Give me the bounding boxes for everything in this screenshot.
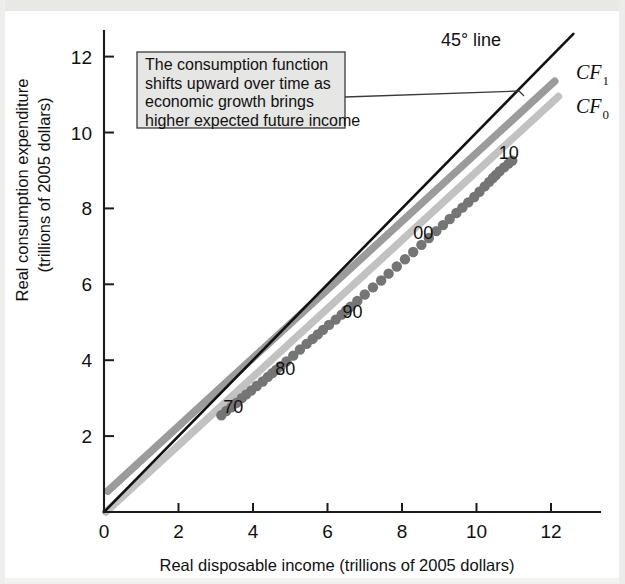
data-point xyxy=(360,289,370,299)
curve-label-cf0-subscript: 0 xyxy=(603,107,610,122)
y-tick-label-8: 8 xyxy=(81,198,92,219)
y-axis-title-line1: Real consumption expenditure xyxy=(13,79,31,302)
callout-line-1: The consumption function xyxy=(145,56,328,73)
x-tick-label-2: 2 xyxy=(173,521,184,542)
year-label-00: 00 xyxy=(413,223,433,243)
y-tick-label-10: 10 xyxy=(71,123,92,144)
callout-line-3: economic growth brings xyxy=(145,93,314,110)
y-tick-label-6: 6 xyxy=(81,274,92,295)
x-axis-title: Real disposable income (trillions of 200… xyxy=(160,556,515,574)
y-axis-ticks: 24681012 xyxy=(71,47,114,448)
year-label-70: 70 xyxy=(223,397,243,417)
cf1-curve xyxy=(108,81,555,491)
callout-leader-line xyxy=(345,91,519,97)
cf0-path xyxy=(106,96,559,512)
callout-leader-arrow xyxy=(519,91,524,96)
year-label-90: 90 xyxy=(342,302,362,322)
x-tick-label-0: 0 xyxy=(99,521,110,542)
cf0-curve xyxy=(106,96,559,512)
y-tick-label-12: 12 xyxy=(71,47,92,68)
y-tick-label-2: 2 xyxy=(81,426,92,447)
line-label-45-degree: 45° line xyxy=(441,30,501,50)
x-tick-label-10: 10 xyxy=(466,521,487,542)
y-axis-title-line2: (trillions of 2005 dollars) xyxy=(35,97,53,272)
x-tick-label-6: 6 xyxy=(322,521,333,542)
x-tick-label-8: 8 xyxy=(397,521,408,542)
curve-label-cf1-subscript: 1 xyxy=(603,73,610,88)
figure-container: 024681012 24681012 Real disposable incom… xyxy=(0,0,625,584)
data-point xyxy=(400,254,410,264)
x-tick-label-12: 12 xyxy=(540,521,561,542)
data-point xyxy=(408,247,418,257)
data-point xyxy=(383,268,393,278)
cf1-path xyxy=(108,81,555,491)
x-tick-label-4: 4 xyxy=(248,521,259,542)
consumption-function-chart: 024681012 24681012 Real disposable incom… xyxy=(0,0,625,584)
year-label-10: 10 xyxy=(499,143,519,163)
data-point xyxy=(392,261,402,271)
data-point xyxy=(368,282,378,292)
x-axis-ticks: 024681012 xyxy=(99,503,562,542)
curve-label-cf1-text: CF xyxy=(576,61,602,83)
y-tick-label-4: 4 xyxy=(81,350,92,371)
callout-line-4: higher expected future income xyxy=(145,112,360,129)
curve-label-cf0: CF0 xyxy=(576,95,609,122)
curve-label-cf1: CF1 xyxy=(576,61,609,88)
year-label-80: 80 xyxy=(275,359,295,379)
curve-label-cf0-text: CF xyxy=(576,95,602,117)
data-point-series xyxy=(216,155,517,420)
callout-line-2: shifts upward over time as xyxy=(145,75,331,92)
